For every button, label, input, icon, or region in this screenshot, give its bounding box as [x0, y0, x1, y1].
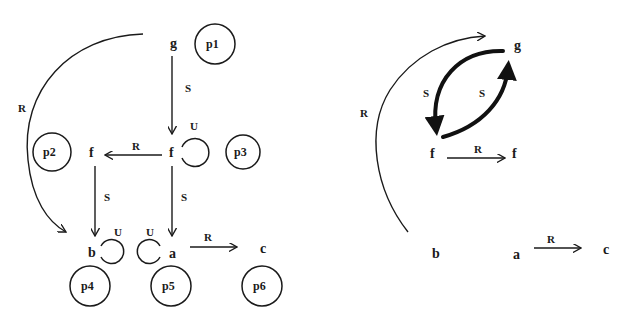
right-diagram: R g S S f R f b a R c — [360, 36, 609, 262]
thick-arrow-f-to-g — [443, 68, 508, 137]
edge-label-a-c-right: R — [547, 233, 556, 245]
edge-label-f-b: S — [104, 191, 110, 203]
node-f-right-right: f — [512, 146, 517, 161]
node-b-right: b — [432, 246, 440, 261]
edge-label-g-f: S — [185, 82, 191, 94]
loop-b — [101, 240, 124, 264]
node-c: c — [260, 241, 266, 256]
loop-a — [137, 240, 160, 264]
node-f-right: f — [169, 145, 174, 160]
place-p1-label: p1 — [206, 37, 219, 51]
loop-label-f: U — [190, 120, 198, 132]
place-p3-label: p3 — [234, 145, 247, 159]
left-diagram: R g p1 S f U p3 R f p2 S S b U U a — [18, 24, 282, 306]
diagram-canvas: R g p1 S f U p3 R f p2 S S b U U a — [0, 0, 624, 320]
loop-f — [182, 139, 209, 167]
edge-label-f-f-right: R — [474, 143, 483, 155]
loop-label-b: U — [114, 226, 122, 238]
edge-label-a-c: R — [204, 231, 213, 243]
node-f-left-right: f — [430, 146, 435, 161]
node-g: g — [170, 36, 177, 51]
node-a-right: a — [513, 247, 520, 262]
node-f-left: f — [89, 145, 94, 160]
edge-label-f-a: S — [181, 191, 187, 203]
place-p4-label: p4 — [81, 279, 94, 293]
edge-label-s-left: S — [423, 87, 429, 99]
edge-label-arc-r: R — [360, 107, 369, 119]
node-b: b — [88, 245, 96, 260]
edge-label-s-right: S — [479, 87, 485, 99]
node-g-right: g — [514, 38, 521, 53]
arc-b-to-g — [376, 36, 485, 232]
edge-label-g-b: R — [18, 102, 27, 114]
node-a: a — [169, 246, 176, 261]
node-c-right: c — [603, 242, 609, 257]
loop-label-a: U — [146, 226, 154, 238]
place-p5-label: p5 — [162, 279, 175, 293]
edge-label-f-f: R — [132, 140, 141, 152]
place-p6-label: p6 — [253, 279, 266, 293]
thick-arrow-g-to-f — [435, 51, 503, 128]
place-p2-label: p2 — [43, 145, 56, 159]
arc-g-to-b — [27, 34, 143, 232]
